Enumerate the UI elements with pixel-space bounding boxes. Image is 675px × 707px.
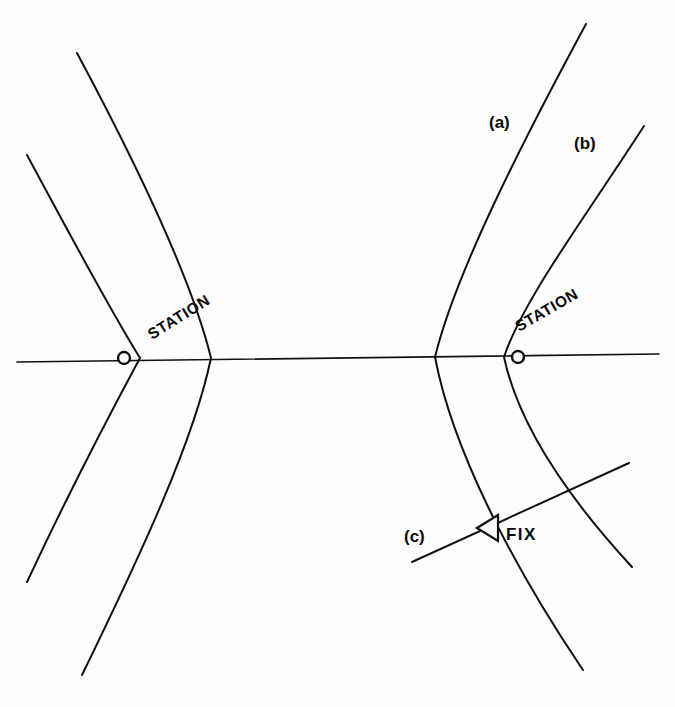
- station-right-marker: [512, 351, 524, 363]
- station-left-label: STATION: [145, 291, 213, 342]
- curve-a-path: [435, 24, 586, 670]
- station-right-label: STATION: [512, 285, 581, 335]
- fix-label: FIX: [506, 525, 537, 544]
- curve-b-label: (b): [574, 134, 596, 153]
- fix-triangle-icon: [477, 515, 498, 541]
- station-left-marker: [118, 352, 130, 364]
- left-inner-hyperbola-curve: [27, 155, 140, 582]
- left-outer-hyperbola-curve: [77, 53, 211, 675]
- curve-a-label: (a): [489, 113, 510, 132]
- diagram-canvas: STATION STATION (a) (b) (c) FIX: [0, 0, 675, 707]
- line-c-label: (c): [404, 527, 425, 546]
- curve-b-path: [504, 126, 644, 567]
- line-c-path: [412, 463, 629, 562]
- hyperbolic-navigation-figure: STATION STATION (a) (b) (c) FIX: [0, 0, 675, 707]
- baseline-axis: [17, 354, 659, 362]
